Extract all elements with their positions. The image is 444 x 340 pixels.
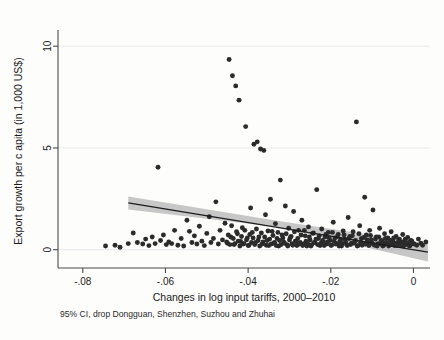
data-point <box>285 244 290 249</box>
data-point <box>331 220 336 225</box>
data-point <box>158 238 163 243</box>
data-point <box>289 234 294 239</box>
data-point <box>143 237 148 242</box>
data-point <box>140 242 145 247</box>
data-point <box>423 240 428 245</box>
data-point <box>291 209 296 214</box>
data-point <box>319 226 324 231</box>
x-tick-label: -.02 <box>322 276 340 287</box>
data-point <box>328 243 333 248</box>
data-point <box>351 229 356 234</box>
data-point <box>259 231 264 236</box>
data-point <box>192 233 197 238</box>
data-point <box>266 229 271 234</box>
data-point <box>306 224 311 229</box>
data-point <box>251 235 256 240</box>
data-point <box>275 230 280 235</box>
data-point <box>161 233 166 238</box>
data-point <box>236 239 241 244</box>
data-point <box>320 238 325 243</box>
data-point <box>213 199 218 204</box>
data-point <box>255 139 260 144</box>
data-point <box>233 83 238 88</box>
data-point <box>197 224 202 229</box>
data-point <box>243 124 248 129</box>
data-point <box>204 231 209 236</box>
data-point <box>135 240 140 245</box>
figure-background <box>0 0 444 340</box>
data-point <box>244 237 249 242</box>
data-point <box>263 212 268 217</box>
data-point <box>377 226 382 231</box>
data-point <box>169 241 174 246</box>
data-point <box>418 241 423 246</box>
x-tick-label: -.06 <box>157 276 175 287</box>
data-point <box>254 226 259 231</box>
data-point <box>227 57 232 62</box>
x-tick-label: 0 <box>411 276 417 287</box>
y-axis-title: Export growth per c apita (in 1,000 US$) <box>12 57 24 244</box>
y-tick-label: 10 <box>42 40 53 52</box>
data-point <box>299 218 304 223</box>
chart-figure: 0510-.08-.06-.04-.020Changes in log inpu… <box>0 0 444 340</box>
data-point <box>362 195 367 200</box>
data-point <box>153 241 158 246</box>
data-point <box>208 240 213 245</box>
data-point <box>268 197 273 202</box>
data-point <box>264 243 269 248</box>
data-point <box>307 235 312 240</box>
data-point <box>199 239 204 244</box>
data-point <box>416 237 421 242</box>
data-point <box>382 231 387 236</box>
data-point <box>211 236 216 241</box>
data-point <box>284 231 289 236</box>
data-point <box>202 243 207 248</box>
data-point <box>118 245 123 250</box>
data-point <box>150 235 155 240</box>
data-point <box>103 244 108 249</box>
data-point <box>242 228 247 233</box>
data-point <box>350 233 355 238</box>
data-point <box>389 229 394 234</box>
data-point <box>371 208 376 213</box>
data-point <box>189 240 194 245</box>
data-point <box>187 229 192 234</box>
data-point <box>341 229 346 234</box>
data-point <box>146 243 151 248</box>
data-point <box>278 178 283 183</box>
data-point <box>239 234 244 239</box>
data-point <box>299 233 304 238</box>
data-point <box>357 223 362 228</box>
data-point <box>237 98 242 103</box>
data-point <box>383 236 388 241</box>
data-point <box>330 230 335 235</box>
data-point <box>231 236 236 241</box>
data-point <box>218 228 223 233</box>
data-point <box>368 233 373 238</box>
data-point <box>256 238 261 243</box>
data-point <box>234 229 239 234</box>
data-point <box>280 235 285 240</box>
data-point <box>226 233 231 238</box>
data-point <box>261 148 266 153</box>
data-point <box>342 233 347 238</box>
data-point <box>230 73 235 78</box>
data-point <box>172 228 177 233</box>
data-point <box>241 242 246 247</box>
data-point <box>181 244 186 249</box>
data-point <box>113 243 118 248</box>
x-tick-label: -.04 <box>240 276 258 287</box>
y-tick-label: 5 <box>42 145 53 151</box>
data-point <box>185 218 190 223</box>
data-point <box>270 229 275 234</box>
data-point <box>194 242 199 247</box>
data-point <box>126 241 131 246</box>
data-point <box>303 233 308 238</box>
data-point <box>391 235 396 240</box>
data-point <box>367 228 372 233</box>
data-point <box>131 231 136 236</box>
data-point <box>283 203 288 208</box>
data-point <box>273 221 278 226</box>
data-point <box>248 206 253 211</box>
data-point <box>175 243 180 248</box>
